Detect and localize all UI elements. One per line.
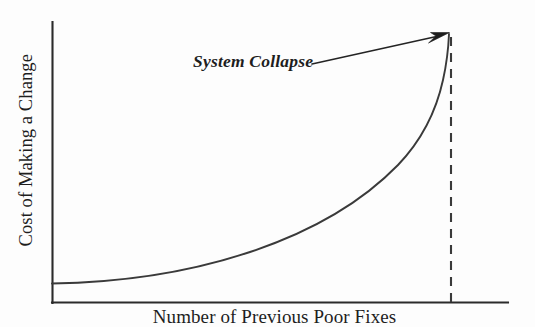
- y-axis-title-container: Cost of Making a Change: [0, 0, 52, 300]
- cost-curve: [52, 34, 449, 284]
- x-axis-title: Number of Previous Poor Fixes: [0, 307, 535, 326]
- annotation-leader-line: [312, 36, 441, 65]
- chart-plot-area: [0, 0, 535, 327]
- annotation-system-collapse-label: System Collapse: [193, 53, 313, 71]
- y-axis-title: Cost of Making a Change: [17, 54, 36, 246]
- chart-figure: System Collapse Cost of Making a Change …: [0, 0, 535, 327]
